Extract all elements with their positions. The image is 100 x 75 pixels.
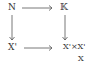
arrow-n-to-x-prime <box>10 15 15 40</box>
arrow-x-prime-to-fiber-product <box>24 46 52 51</box>
arrows-layer <box>0 0 100 75</box>
arrow-k-to-fiber-product <box>63 15 68 40</box>
arrow-n-to-k <box>22 6 52 11</box>
